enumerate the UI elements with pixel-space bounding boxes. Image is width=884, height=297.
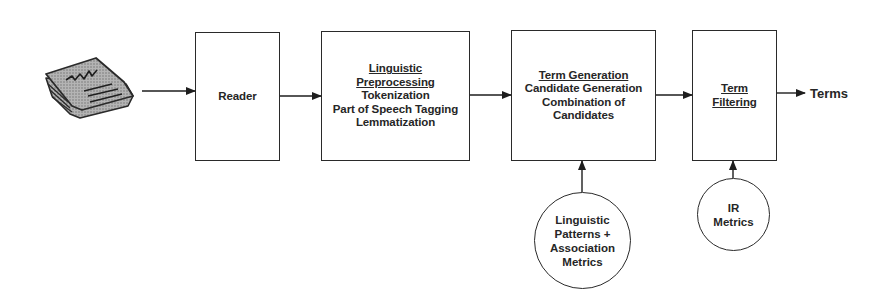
tokenization-label: Tokenization bbox=[361, 89, 429, 103]
pos-tagging-label: Part of Speech Tagging bbox=[333, 103, 458, 117]
linguistic-patterns-line-1: Linguistic bbox=[555, 213, 609, 227]
linguistic-preprocessing-title-2: Preprocessing bbox=[356, 76, 435, 90]
combination-of-label: Combination of bbox=[542, 96, 625, 110]
reader-box: Reader bbox=[195, 32, 280, 161]
ir-metrics-circle: IR Metrics bbox=[697, 178, 770, 251]
terms-output-label: Terms bbox=[810, 86, 848, 101]
linguistic-patterns-line-2: Patterns + bbox=[555, 227, 611, 241]
linguistic-patterns-circle: Linguistic Patterns + Association Metric… bbox=[534, 192, 631, 289]
linguistic-patterns-line-3: Association bbox=[550, 241, 615, 255]
pipeline-diagram: Reader Linguistic Preprocessing Tokeniza… bbox=[0, 0, 884, 297]
lemmatization-label: Lemmatization bbox=[356, 116, 435, 130]
ir-metrics-line-1: IR bbox=[728, 201, 740, 215]
candidates-label: Candidates bbox=[553, 109, 614, 123]
ir-metrics-line-2: Metrics bbox=[713, 215, 753, 229]
term-generation-box: Term Generation Candidate Generation Com… bbox=[511, 30, 656, 161]
term-filtering-title-1: Term bbox=[721, 82, 748, 96]
term-filtering-title-2: Filtering bbox=[712, 96, 756, 110]
term-generation-title: Term Generation bbox=[539, 69, 629, 83]
reader-label: Reader bbox=[218, 90, 256, 104]
candidate-generation-label: Candidate Generation bbox=[525, 82, 643, 96]
term-filtering-box: Term Filtering bbox=[692, 30, 777, 161]
linguistic-preprocessing-box: Linguistic Preprocessing Tokenization Pa… bbox=[321, 31, 470, 161]
linguistic-patterns-line-4: Metrics bbox=[562, 255, 602, 269]
linguistic-preprocessing-title-1: Linguistic bbox=[369, 62, 422, 76]
